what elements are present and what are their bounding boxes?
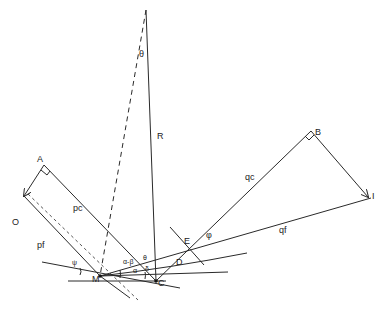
label-D: D <box>176 257 183 267</box>
right-angle-A <box>41 170 50 175</box>
radius-line-R <box>146 10 156 281</box>
arrow-A-O <box>24 165 44 196</box>
label-psi: ψ <box>72 259 77 267</box>
label-qf: qf <box>279 225 287 235</box>
label-phi: φ <box>206 230 212 240</box>
label-theta-small: θ <box>143 254 147 261</box>
label-E: E <box>184 236 190 246</box>
label-A: A <box>37 154 43 164</box>
line-pc <box>44 165 156 281</box>
label-B: B <box>315 127 321 137</box>
label-alpha: α <box>133 267 137 274</box>
line-qf <box>100 198 371 276</box>
label-R: R <box>157 131 164 141</box>
label-C: C <box>158 278 165 288</box>
angle-arc-psi <box>80 268 81 275</box>
label-pf: pf <box>37 240 45 250</box>
geometry-diagram: θ R A pc O pf ψ M α-β θ α δ C D E φ qc q… <box>0 0 383 314</box>
line-pf <box>24 196 100 276</box>
angle-arc-m <box>120 270 121 278</box>
angle-arc-c <box>145 272 146 279</box>
label-alpha-beta: α-β <box>123 258 133 266</box>
normal-extension <box>100 276 130 298</box>
label-qc: qc <box>245 172 255 182</box>
arrow-B-I <box>311 131 368 197</box>
label-theta: θ <box>139 49 144 59</box>
label-O: O <box>12 217 19 227</box>
label-I: I <box>372 191 375 201</box>
label-M: M <box>92 274 100 284</box>
label-delta: δ <box>145 265 149 272</box>
label-pc: pc <box>73 203 83 213</box>
